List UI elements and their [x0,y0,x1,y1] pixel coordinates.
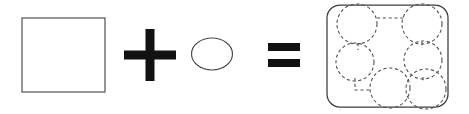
square-term [22,18,105,92]
ellipse-term [192,38,233,70]
result-circle-group [336,4,446,109]
ellipse-shape [192,38,233,70]
circle-middle-right [404,41,442,79]
circle-bottom-right [406,69,446,109]
circle-middle-left [336,43,374,81]
circle-top-right [402,4,442,44]
square-shape [22,18,105,92]
equation-canvas [0,0,469,114]
result-term [327,4,448,109]
plus-sign-icon [124,29,176,81]
circle-bottom-center [370,68,410,108]
equals-sign-icon [268,43,300,67]
shape-equation-figure: Diagram showing a plain square plus an e… [0,0,469,114]
equals-bottom-bar [268,59,300,67]
circle-top-left [337,4,377,44]
result-connector-group [355,18,423,90]
equals-top-bar [268,43,300,51]
plus-vertical-arm [146,29,155,81]
connector-bottom-left-elbow [355,78,372,90]
rounded-square-shape [327,5,448,107]
